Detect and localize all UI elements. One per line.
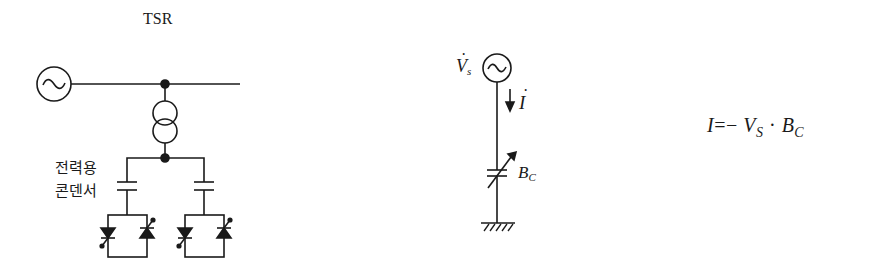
phasor-dot: · xyxy=(461,46,466,64)
eq-dot: · xyxy=(763,114,781,136)
diagram-canvas: TSR 전력용 콘덴서 ·Vs ·I BC I=− VS · BC xyxy=(0,0,879,272)
transformer-icon xyxy=(153,101,177,143)
thyristor-pair-left-icon xyxy=(100,215,155,257)
eq-susceptance: B xyxy=(782,114,795,136)
current-equation: I=− VS · BC xyxy=(707,114,804,141)
ac-source-middle-icon xyxy=(483,54,511,82)
tsr-title: TSR xyxy=(143,10,172,28)
variable-capacitor-icon xyxy=(487,152,516,188)
capacitor-right-icon xyxy=(194,182,214,215)
ground-icon xyxy=(481,223,515,231)
susceptance-label: BC xyxy=(518,163,536,183)
capacitor-label-line2: 콘덴서 xyxy=(55,180,97,203)
eq-voltage: V xyxy=(743,114,756,136)
capacitor-label-line1: 전력용 xyxy=(55,157,97,180)
current-label: ·I xyxy=(519,92,525,114)
eq-operator: =− xyxy=(714,114,743,136)
current-arrow-icon xyxy=(506,89,514,111)
phasor-dot: · xyxy=(523,82,528,100)
capacitor-left-icon xyxy=(117,182,137,215)
source-voltage-label: ·Vs xyxy=(456,56,471,77)
ac-source-icon xyxy=(37,67,71,101)
thyristor-pair-right-icon xyxy=(177,215,232,257)
